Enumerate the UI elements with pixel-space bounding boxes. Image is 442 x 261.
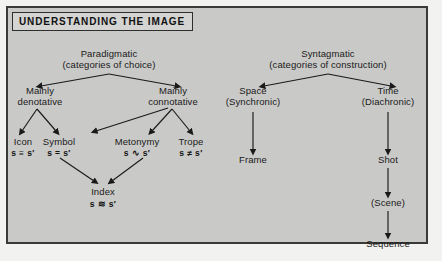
node-space: Space (Synchronic) [222,85,284,107]
node-time: Time (Diachronic) [357,85,419,107]
node-mainly-denotative: Mainly denotative [9,85,71,107]
node-mainly-connotative: Mainly connotative [140,85,206,107]
node-scene: (Scene) [362,197,414,208]
node-mainly-denotative-line2: denotative [9,96,71,107]
node-shot: Shot [366,154,410,165]
node-symbol: Symbol [34,136,84,147]
notation-trope: s ≠ s′ [167,148,215,158]
node-space-line2: (Synchronic) [222,96,284,107]
node-paradigmatic-line2: (categories of choice) [49,59,169,70]
diagram-canvas: UNDERSTANDING THE IMAGE Paradigmatic (ca… [0,0,442,261]
node-space-line1: Space [239,85,266,96]
notation-index: s ≋ s′ [79,199,127,209]
node-paradigmatic: Paradigmatic (categories of choice) [49,48,169,70]
node-syntagmatic: Syntagmatic (categories of construction) [253,48,403,70]
node-mainly-connotative-line2: connotative [140,96,206,107]
node-mainly-denotative-line1: Mainly [26,85,54,96]
node-paradigmatic-line1: Paradigmatic [81,48,138,59]
node-mainly-connotative-line1: Mainly [159,85,187,96]
node-index: Index [79,186,127,197]
notation-metonymy: s ∿ s′ [108,148,166,158]
figure-title-box: UNDERSTANDING THE IMAGE [12,12,193,31]
node-frame: Frame [228,154,278,165]
node-sequence: Sequence [358,238,418,249]
node-syntagmatic-line1: Syntagmatic [301,48,354,59]
node-trope: Trope [167,136,215,147]
node-time-line2: (Diachronic) [357,96,419,107]
diagram-frame [6,6,428,244]
node-time-line1: Time [377,85,398,96]
node-metonymy: Metonymy [108,136,166,147]
notation-symbol: s = s′ [34,148,84,158]
page-title: UNDERSTANDING THE IMAGE [19,16,185,27]
node-syntagmatic-line2: (categories of construction) [253,59,403,70]
